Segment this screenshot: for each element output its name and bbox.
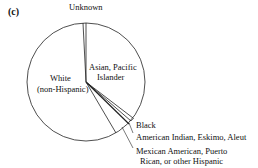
label-white-2: (non-Hispanic) xyxy=(37,84,88,94)
label-asian-2: Islander xyxy=(97,72,124,82)
callout-amindian xyxy=(129,123,133,133)
label-black: Black xyxy=(136,120,156,130)
label-white-1: White xyxy=(50,73,71,83)
label-unknown: Unknown xyxy=(69,2,103,12)
label-amindian: American Indian, Eskimo, Aleut xyxy=(136,132,246,142)
label-asian-1: Asian, Pacific xyxy=(89,62,137,72)
label-mexican-1: Mexican American, Puerto xyxy=(136,146,227,156)
callout-mexican xyxy=(122,127,133,148)
label-mexican-2: Rican, or other Hispanic xyxy=(140,156,223,166)
